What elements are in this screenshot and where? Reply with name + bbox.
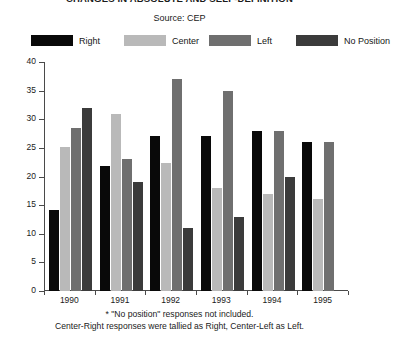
- bar-right-1990: [49, 210, 59, 291]
- legend-label-left: Left: [251, 36, 282, 46]
- legend-swatch-center: [124, 35, 166, 46]
- plot-area: 0510152025303540 19901991199219931994199…: [44, 62, 348, 291]
- bar-left-1992: [172, 79, 182, 291]
- bar-left-1994: [274, 131, 284, 291]
- chart-source-label: Source: CEP: [0, 13, 359, 23]
- y-tick-label: 35: [27, 85, 36, 95]
- bar-center-1990: [60, 147, 70, 291]
- legend-item-right: Right: [31, 34, 110, 47]
- footnote-1: * "No position" responses not included.: [0, 309, 359, 321]
- bar-center-1992: [161, 163, 171, 291]
- bar-right-1995: [302, 142, 312, 291]
- legend-item-center: Center: [124, 34, 209, 47]
- bar-left-1993: [223, 91, 233, 291]
- y-tick-label: 0: [31, 285, 36, 295]
- bar-group-1990: [49, 62, 92, 291]
- legend-label-center: Center: [166, 36, 209, 46]
- chart-legend: Right Center Left No Position: [31, 34, 331, 47]
- bar-center-1993: [212, 188, 222, 291]
- bar-left-1995: [324, 142, 334, 291]
- legend-label-right: Right: [73, 36, 110, 46]
- y-tick-label: 40: [27, 56, 36, 66]
- legend-swatch-right: [31, 35, 73, 46]
- x-label-1995: 1995: [293, 295, 353, 305]
- y-tick-label: 5: [31, 256, 36, 266]
- footnote-2: Center-Right responses were tallied as R…: [0, 321, 359, 333]
- chart-title: CHANGES IN ABSOLUTE AND SELF-DEFINITION: [0, 0, 359, 4]
- legend-item-no-position: No Position: [296, 34, 395, 47]
- y-tick: 5: [39, 262, 44, 263]
- bar-right-1993: [201, 136, 211, 291]
- bar-no-position-1990: [82, 108, 92, 291]
- bar-center-1995: [313, 199, 323, 291]
- legend-swatch-left: [209, 35, 251, 46]
- chart-footnotes: * "No position" responses not included. …: [0, 309, 359, 332]
- legend-swatch-no-position: [296, 35, 338, 46]
- y-tick: 30: [39, 119, 44, 120]
- y-tick-label: 10: [27, 228, 36, 238]
- bar-group-1995: [302, 62, 334, 291]
- bar-no-position-1993: [234, 217, 244, 291]
- y-tick: 10: [39, 234, 44, 235]
- y-tick-label: 30: [27, 113, 36, 123]
- bar-group-1992: [150, 62, 193, 291]
- y-tick-label: 20: [27, 171, 36, 181]
- bar-group-1994: [252, 62, 295, 291]
- bar-group-1991: [100, 62, 143, 291]
- bar-no-position-1991: [133, 182, 143, 291]
- bar-no-position-1992: [183, 228, 193, 291]
- bar-left-1990: [71, 128, 81, 291]
- y-tick: 25: [39, 148, 44, 149]
- y-tick: 20: [39, 177, 44, 178]
- bar-right-1992: [150, 136, 160, 291]
- y-axis-line: [44, 62, 45, 291]
- y-tick: 35: [39, 91, 44, 92]
- y-tick: 15: [39, 205, 44, 206]
- bar-right-1991: [100, 166, 110, 291]
- bar-right-1994: [252, 131, 262, 291]
- legend-item-left: Left: [209, 34, 282, 47]
- y-tick: 40: [39, 62, 44, 63]
- legend-label-no-position: No Position: [338, 36, 395, 46]
- bar-group-1993: [201, 62, 244, 291]
- y-tick-label: 25: [27, 142, 36, 152]
- y-tick-label: 15: [27, 199, 36, 209]
- bar-center-1991: [111, 114, 121, 291]
- bar-no-position-1994: [285, 177, 295, 292]
- bar-left-1991: [122, 159, 132, 291]
- bar-center-1994: [263, 194, 273, 291]
